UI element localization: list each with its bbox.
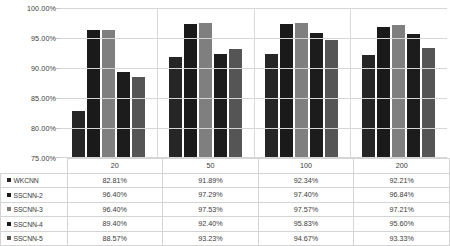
legend-entry: SSCNN-4 [1,217,68,232]
bar [265,54,278,158]
bar [310,33,323,158]
table-cell-value: 96.40% [67,202,163,217]
group-separator [157,8,158,158]
table-cell-value: 95.83% [258,217,354,232]
table-row: SSCNN-396.40%97.53%97.57%97.21% [1,202,450,217]
table-cell-value: 96.40% [67,188,163,203]
bar-group [157,8,254,158]
table-column-header: 200 [354,159,450,174]
table-head: 2050100200 [1,159,450,174]
legend-series-label: SSCNN-5 [14,235,43,242]
table-cell-value: 93.23% [163,231,259,246]
table-cell-value: 91.89% [163,173,259,188]
y-axis-tick-label: 85.00% [31,94,56,103]
table-body: WKCNN82.81%91.89%92.34%92.21%SSCNN-296.4… [1,173,450,246]
table-cell-value: 92.40% [163,217,259,232]
y-axis-tick-label: 90.00% [31,64,56,73]
legend-series-label: SSCNN-4 [14,221,43,228]
table-column-header: 50 [163,159,259,174]
table-column-header: 100 [258,159,354,174]
table-row: SSCNN-296.40%97.29%97.40%96.84% [1,188,450,203]
y-axis-tick-mark [56,68,60,69]
legend-entry: WKCNN [1,173,68,188]
bar [392,25,405,158]
y-axis-tick-mark [56,8,60,9]
table-cell-value: 97.53% [163,202,259,217]
plot-region: 100.00%95.00%90.00%85.00%80.00%75.00% [0,8,450,158]
bar [295,23,308,158]
bar [117,72,130,158]
data-table: 2050100200 WKCNN82.81%91.89%92.34%92.21%… [0,158,450,246]
y-axis-tick-mark [56,128,60,129]
legend-header-blank [1,159,68,174]
table-cell-value: 94.67% [258,231,354,246]
bar [169,57,182,158]
table-cell-value: 96.84% [354,188,450,203]
legend-swatch-icon [7,178,11,182]
bar [72,111,85,158]
legend-swatch-icon [7,236,11,240]
table-cell-value: 82.81% [67,173,163,188]
bar [132,77,145,158]
plot-area [60,8,447,158]
table-cell-value: 93.33% [354,231,450,246]
legend-series-label: SSCNN-2 [14,192,43,199]
bar-group [350,8,447,158]
table-cell-value: 88.57% [67,231,163,246]
table-cell-value: 97.57% [258,202,354,217]
legend-entry: SSCNN-5 [1,231,68,246]
bar [214,54,227,158]
bar [184,24,197,158]
y-axis-tick-mark [56,38,60,39]
bar [199,23,212,158]
y-axis-tick-mark [56,98,60,99]
table-cell-value: 97.21% [354,202,450,217]
table-header-row: 2050100200 [1,159,450,174]
bar-group [60,8,157,158]
legend-entry: SSCNN-3 [1,202,68,217]
table-column-header: 20 [67,159,163,174]
table-cell-value: 97.40% [258,188,354,203]
legend-swatch-icon [7,193,11,197]
bar [87,30,100,158]
bar [407,34,420,158]
table-cell-value: 92.21% [354,173,450,188]
legend-entry: SSCNN-2 [1,188,68,203]
bar [377,27,390,158]
legend-series-label: SSCNN-3 [14,206,43,213]
group-separator [254,8,255,158]
legend-swatch-icon [7,207,11,211]
y-axis-tick-label: 100.00% [27,4,56,13]
table-cell-value: 97.29% [163,188,259,203]
bar [362,55,375,158]
table-row: WKCNN82.81%91.89%92.34%92.21% [1,173,450,188]
group-separator [350,8,351,158]
y-axis-tick-label: 80.00% [31,124,56,133]
table-row: SSCNN-489.40%92.40%95.83%95.60% [1,217,450,232]
table-cell-value: 89.40% [67,217,163,232]
table-row: SSCNN-588.57%93.23%94.67%93.33% [1,231,450,246]
bar [422,48,435,158]
bar [102,30,115,158]
table-cell-value: 92.34% [258,173,354,188]
y-axis: 100.00%95.00%90.00%85.00%80.00%75.00% [0,8,60,158]
bar-group [254,8,351,158]
legend-series-label: WKCNN [14,177,39,184]
table-cell-value: 95.60% [354,217,450,232]
bar [280,24,293,158]
legend-swatch-icon [7,222,11,226]
y-axis-tick-label: 95.00% [31,34,56,43]
bar [229,49,242,158]
